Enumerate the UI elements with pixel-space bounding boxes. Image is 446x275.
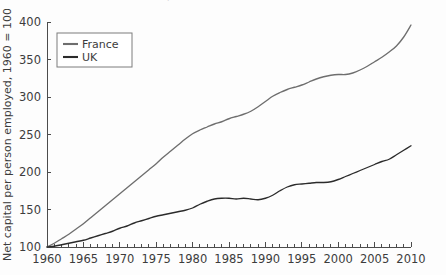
chart-legend: FranceUK [57,33,132,67]
y-tick-label: 250 [19,128,41,142]
x-tick-label: 2005 [360,252,389,266]
x-tick-label: 1975 [142,252,171,266]
x-tick-label: 1965 [69,252,98,266]
y-tick-label: 350 [19,53,41,67]
y-tick-label: 400 [19,15,41,29]
x-tick-label: 1990 [251,252,280,266]
x-tick-label: 1960 [32,252,61,266]
y-tick-label: 300 [19,90,41,104]
y-axis-ticks-group: 100150200250300350400 [19,15,51,254]
x-tick-label: 2000 [324,252,353,266]
cutoff-caption-text: continued caption text [104,0,215,1]
x-axis-ticks-group: 1960196519701975198019851990199520002005… [32,242,425,266]
x-tick-label: 1980 [178,252,207,266]
legend-label-france: France [82,38,119,51]
chart-screenshot: continued caption text Net capital per p… [0,0,446,275]
x-tick-label: 1985 [214,252,243,266]
series-line-uk [47,146,411,247]
line-chart-figure: Net capital per person employed, 1960 = … [0,9,446,275]
cutoff-caption-strip: continued caption text [0,0,446,9]
y-axis-label-group: Net capital per person employed, 1960 = … [1,9,14,261]
chart-plot-area: Net capital per person employed, 1960 = … [0,9,446,275]
x-tick-label: 2010 [396,252,425,266]
y-axis-title: Net capital per person employed, 1960 = … [1,9,14,261]
x-tick-label: 1995 [287,252,316,266]
legend-label-uk: UK [82,51,98,64]
y-tick-label: 200 [19,165,41,179]
y-tick-label: 150 [19,203,41,217]
x-tick-label: 1970 [105,252,134,266]
